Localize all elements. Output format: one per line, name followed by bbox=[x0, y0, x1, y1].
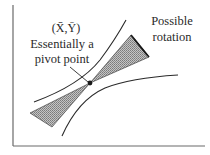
mean-point-label: (X̄,Ȳ) bbox=[36, 21, 96, 35]
pivot-label-line1: Essentially a bbox=[14, 37, 110, 51]
lower-confidence-curve bbox=[62, 75, 178, 136]
regression-pivot-diagram: (X̄,Ȳ) Essentially a pivot point Possibl… bbox=[0, 0, 210, 155]
pivot-point bbox=[88, 81, 93, 86]
rotation-label-line1: Possible bbox=[140, 14, 204, 28]
rotation-label-line2: rotation bbox=[140, 30, 204, 44]
pivot-label-line2: pivot point bbox=[14, 52, 110, 66]
